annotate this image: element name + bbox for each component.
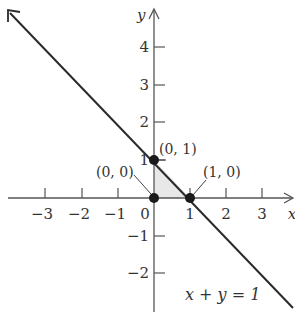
origin-label: 0 [140, 205, 150, 223]
y-tick-label: 2 [139, 113, 149, 131]
y-tick-label: −1 [127, 227, 149, 245]
y-tick-label: −2 [127, 264, 149, 282]
leader-line-00 [134, 175, 151, 194]
point-label-0-1: (0, 1) [159, 141, 197, 157]
x-tick-label: 2 [221, 205, 231, 223]
x-tick-label: 1 [185, 205, 195, 223]
x-tick-label: −2 [68, 205, 90, 223]
point-0-0 [149, 193, 159, 203]
x-tick-label: −3 [31, 205, 53, 223]
equation-label: x + y = 1 [185, 285, 260, 304]
point-0-1 [149, 155, 159, 165]
point-label-0-0: (0, 0) [96, 164, 134, 180]
y-tick-labels: 4 3 2 1 −1 −2 [127, 38, 149, 282]
y-axis-label: y [136, 6, 146, 24]
leader-line-10 [193, 180, 206, 195]
x-tick-label: −1 [104, 205, 126, 223]
x-tick-label: 3 [257, 205, 267, 223]
point-1-0 [185, 193, 195, 203]
x-tick-labels: −3 −2 −1 0 1 2 3 x [31, 205, 295, 223]
shaded-region [154, 160, 190, 198]
coordinate-plane: −3 −2 −1 0 1 2 3 x 4 3 2 1 −1 −2 y (0, 1… [0, 0, 295, 321]
chart-figure: −3 −2 −1 0 1 2 3 x 4 3 2 1 −1 −2 y (0, 1… [0, 0, 295, 321]
y-tick-label: 4 [139, 38, 149, 56]
x-axis-label: x [288, 205, 295, 223]
point-label-1-0: (1, 0) [203, 164, 241, 180]
y-tick-label: 3 [139, 76, 149, 94]
